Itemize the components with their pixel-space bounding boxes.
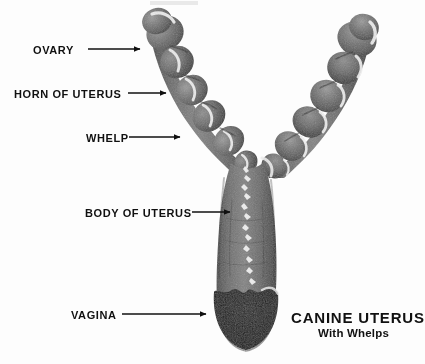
label-vagina: VAGINA xyxy=(71,309,117,321)
figure-subtitle: With Whelps xyxy=(318,327,389,339)
label-whelp: WHELP xyxy=(86,132,129,144)
figure-title: CANINE UTERUS xyxy=(291,309,425,326)
label-ovary: OVARY xyxy=(33,44,74,56)
label-body-of-uterus: BODY OF UTERUS xyxy=(85,207,192,219)
label-horn-of-uterus: HORN OF UTERUS xyxy=(14,88,121,100)
